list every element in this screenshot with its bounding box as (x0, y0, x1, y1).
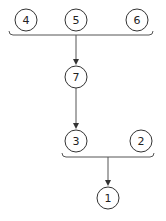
node-4: 4 (15, 9, 37, 31)
node-label: 5 (73, 14, 80, 27)
bottom-group-bracket (62, 153, 154, 157)
node-label: 7 (73, 71, 80, 84)
node-3: 3 (65, 130, 87, 152)
node-label: 1 (105, 192, 112, 205)
arrowhead-icon (105, 180, 111, 186)
arrowhead-icon (73, 123, 79, 129)
top-group-bracket (9, 31, 153, 35)
node-label: 4 (23, 14, 30, 27)
node-6: 6 (126, 9, 148, 31)
node-2: 2 (130, 130, 152, 152)
node-label: 3 (73, 135, 80, 148)
node-7: 7 (65, 66, 87, 88)
node-label: 2 (138, 135, 145, 148)
node-1: 1 (97, 187, 119, 209)
dependency-diagram: 4 5 6 7 3 2 1 (0, 0, 166, 221)
node-label: 6 (134, 14, 141, 27)
arrowhead-icon (73, 59, 79, 65)
node-5: 5 (65, 9, 87, 31)
